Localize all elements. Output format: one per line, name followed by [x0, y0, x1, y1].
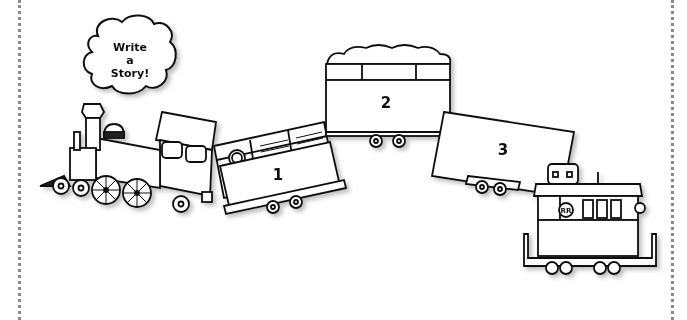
car-3-number: 3: [498, 141, 508, 159]
car-1-number: 1: [273, 166, 283, 184]
train-scene: Write a Story!: [0, 0, 687, 320]
thought-bubble: Write a Story!: [84, 15, 176, 93]
caboose-emblem: RR: [561, 207, 572, 215]
car-2-hopper: 2: [326, 45, 450, 147]
car-2-number: 2: [381, 94, 391, 112]
bubble-line-1: Write: [113, 41, 147, 54]
bubble-line-3: Story!: [111, 67, 149, 80]
bubble-line-2: a: [126, 54, 133, 67]
locomotive: [40, 104, 216, 212]
